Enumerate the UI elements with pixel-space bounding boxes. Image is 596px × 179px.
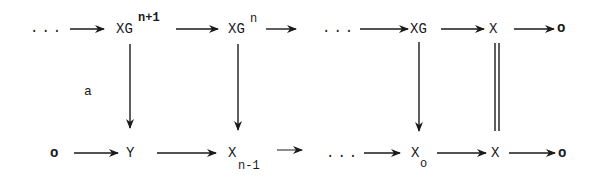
- node-xg-n-base: XG: [228, 21, 245, 37]
- node-xg-n-sup: n: [250, 13, 257, 25]
- node-x-o: X o: [411, 146, 419, 160]
- commutative-diagram: ... XG n+1 XG n ... XG X o a o Y X n-1 .…: [0, 0, 596, 179]
- bottom-dots-mid: ...: [326, 146, 360, 160]
- node-xg-n: XG n: [228, 22, 245, 36]
- node-xg-n-plus-1-base: XG: [116, 21, 133, 37]
- node-x-n-minus-1-base: X: [228, 145, 236, 161]
- node-xg: XG: [410, 22, 427, 36]
- node-x-o-sub: o: [420, 158, 427, 170]
- node-zero-bottom-left: o: [50, 146, 58, 160]
- node-x-n-minus-1-sub: n-1: [238, 160, 260, 172]
- node-zero-bottom-right: o: [558, 146, 566, 160]
- node-x-bottom: X: [491, 146, 499, 160]
- map-label-a: a: [84, 84, 92, 99]
- node-x-top: X: [489, 22, 497, 36]
- node-x-n-minus-1: X n-1: [228, 146, 236, 160]
- node-y: Y: [126, 146, 134, 160]
- node-xg-n-plus-1-sup: n+1: [138, 12, 160, 24]
- node-xg-n-plus-1: XG n+1: [116, 22, 133, 36]
- node-x-o-base: X: [411, 145, 419, 161]
- node-zero-top: o: [557, 21, 565, 35]
- top-dots-left: ...: [30, 21, 64, 35]
- top-dots-mid: ...: [322, 21, 356, 35]
